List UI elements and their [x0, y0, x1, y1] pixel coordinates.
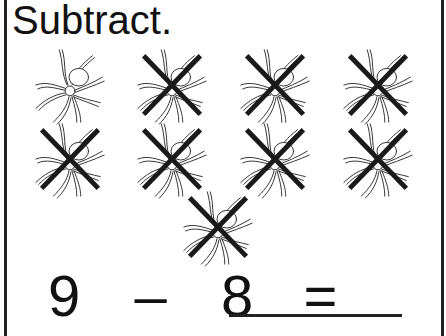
- spider-icon: [28, 118, 112, 202]
- spider-crossed-out: [336, 118, 420, 202]
- spider-icon: [130, 44, 214, 128]
- spider: [28, 44, 112, 128]
- subtrahend: 8: [221, 262, 253, 329]
- answer-blank[interactable]: [229, 314, 402, 317]
- spider-icon: [176, 186, 260, 270]
- spider-icon: [336, 118, 420, 202]
- equals-sign: =: [304, 262, 338, 329]
- spider-crossed-out: [176, 186, 260, 270]
- subtraction-equation: 9 – 8 =: [48, 262, 337, 329]
- spider-crossed-out: [336, 44, 420, 128]
- spider-crossed-out: [130, 44, 214, 128]
- spider-crossed-out: [233, 44, 317, 128]
- minus-sign: –: [135, 262, 167, 329]
- spider-icon: [28, 44, 112, 128]
- instruction-title: Subtract.: [12, 0, 172, 43]
- spider-crossed-out: [28, 118, 112, 202]
- spider-icon: [233, 44, 317, 128]
- spider-icon: [336, 44, 420, 128]
- minuend: 9: [48, 262, 80, 329]
